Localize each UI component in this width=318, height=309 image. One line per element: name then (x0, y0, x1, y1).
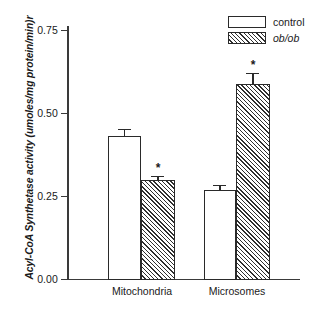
significance-star-mitochondria-obob: * (151, 162, 165, 174)
legend-label-obob: ob/ob (273, 32, 299, 44)
bar-microsomes-control (204, 190, 236, 279)
significance-star-microsomes-obob: * (246, 59, 260, 71)
error-bar-cap-mitochondria-obob (151, 176, 164, 177)
x-category-label-mitochondria: Mitochondria (101, 285, 183, 297)
y-tick-label-025: 0.25 (18, 190, 58, 202)
bar-mitochondria-control (108, 136, 141, 280)
bar-chart-figure: Acyl-CoA Synthetase activity (umoles/mg … (0, 0, 318, 309)
y-tick-label-000: 0.00 (18, 273, 58, 285)
y-tick-mark-075 (61, 30, 67, 31)
error-bar-stem-microsomes-control (219, 185, 220, 190)
bar-mitochondria-obob (141, 180, 175, 279)
legend-swatch-control (228, 16, 266, 28)
y-tick-label-050: 0.50 (18, 107, 58, 119)
error-bar-stem-microsomes-obob (252, 74, 253, 85)
error-bar-cap-microsomes-control (213, 185, 226, 186)
legend-label-control: control (273, 16, 305, 28)
y-tick-label-075: 0.75 (18, 24, 58, 36)
error-bar-cap-microsomes-obob (246, 73, 259, 74)
error-bar-cap-mitochondria-control (118, 129, 131, 130)
legend-swatch-obob (228, 32, 266, 44)
x-category-label-microsomes: Microsomes (196, 285, 278, 297)
y-tick-mark-050 (61, 113, 67, 114)
y-tick-mark-000 (61, 279, 67, 280)
y-axis-line (67, 26, 69, 280)
error-bar-stem-mitochondria-control (124, 130, 125, 137)
bar-microsomes-obob (236, 84, 270, 280)
y-axis-title: Acyl-CoA Synthetase activity (umoles/mg … (24, 24, 35, 280)
y-tick-mark-025 (61, 196, 67, 197)
